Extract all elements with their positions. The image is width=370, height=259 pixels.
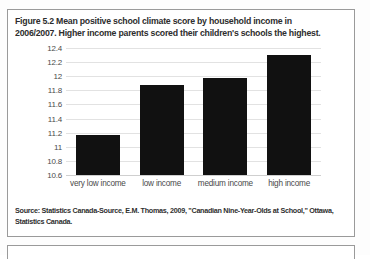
y-axis-tick-label: 11.4 bbox=[48, 114, 62, 123]
figure-caption: Figure 5.2 Mean positive school climate … bbox=[15, 15, 329, 39]
figure-source-note: Source: Statistics Canada-Source, E.M. T… bbox=[15, 206, 334, 227]
y-axis-tick-label: 11.8 bbox=[48, 86, 62, 95]
y-axis-labels: 10.610.81111.211.411.611.81212.212.4 bbox=[28, 48, 62, 175]
x-axis-category-label: low income bbox=[131, 179, 193, 190]
y-axis-tick-label: 12.2 bbox=[47, 58, 62, 67]
gridline bbox=[66, 175, 321, 176]
figure-container: Figure 5.2 Mean positive school climate … bbox=[7, 9, 355, 237]
x-axis-category-label: very low income bbox=[67, 179, 129, 190]
y-axis-tick-label: 11.2 bbox=[48, 128, 62, 137]
bar bbox=[203, 78, 247, 175]
plot-area bbox=[66, 48, 321, 175]
y-axis-tick-label: 12 bbox=[54, 72, 63, 81]
bar bbox=[140, 85, 184, 175]
y-axis-tick-label: 10.8 bbox=[47, 156, 62, 165]
y-axis-tick-label: 12.4 bbox=[47, 44, 62, 53]
x-axis-labels: very low incomelow incomemedium incomehi… bbox=[66, 179, 321, 207]
next-figure-container bbox=[7, 245, 355, 259]
bar-chart: 10.610.81111.211.411.611.81212.212.4 ver… bbox=[8, 44, 354, 199]
bar bbox=[267, 55, 311, 175]
bar-series bbox=[66, 48, 321, 175]
y-axis-tick-label: 11.6 bbox=[48, 100, 62, 109]
x-axis-category-label: medium income bbox=[194, 179, 256, 190]
page-top-edge-artifact bbox=[0, 0, 370, 8]
bar bbox=[76, 135, 120, 175]
y-axis-tick-label: 11 bbox=[54, 142, 62, 151]
y-axis-tick-label: 10.6 bbox=[47, 171, 62, 180]
x-axis-category-label: high income bbox=[258, 179, 320, 190]
